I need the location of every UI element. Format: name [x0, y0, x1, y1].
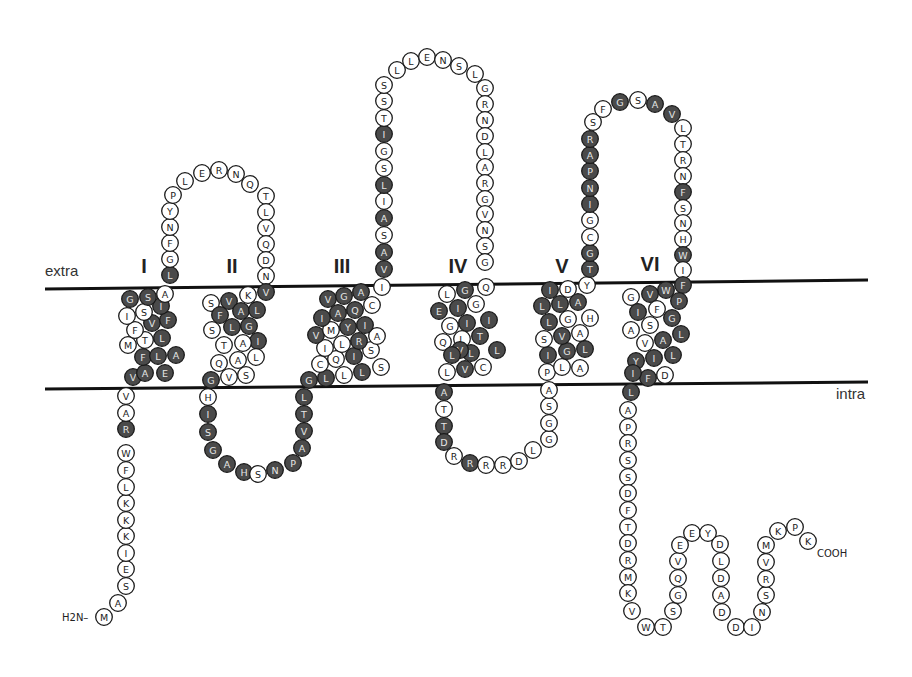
residue-3: S: [118, 578, 135, 595]
svg-text:D: D: [564, 284, 571, 295]
residue-84: L: [336, 367, 353, 384]
residue-117: S: [376, 93, 393, 110]
svg-text:G: G: [668, 313, 675, 324]
residue-200: S: [630, 92, 647, 109]
residue-248: S: [665, 603, 682, 620]
residue-202: V: [664, 106, 681, 123]
residue-204: T: [675, 136, 692, 153]
svg-text:R: R: [587, 134, 594, 145]
residue-70: I: [200, 406, 217, 423]
tm-helix-label-1: I: [141, 255, 147, 277]
svg-text:A: A: [546, 385, 553, 396]
svg-text:L: L: [444, 289, 450, 300]
svg-text:L: L: [530, 445, 536, 456]
residue-189: G: [582, 245, 599, 262]
residue-45: L: [258, 204, 275, 221]
svg-text:Q: Q: [351, 305, 358, 316]
svg-text:A: A: [441, 387, 448, 398]
svg-text:L: L: [482, 147, 488, 158]
residue-108: A: [376, 244, 393, 261]
residue-158: T: [436, 418, 453, 435]
residue-205: R: [675, 152, 692, 169]
residue-253: E: [684, 525, 701, 542]
svg-text:R: R: [625, 555, 632, 566]
svg-text:L: L: [155, 351, 161, 362]
residue-268: P: [787, 519, 804, 536]
svg-text:K: K: [123, 531, 130, 542]
residue-66: S: [238, 367, 255, 384]
svg-text:L: L: [167, 270, 173, 281]
svg-text:I: I: [383, 129, 386, 140]
residue-64: A: [230, 352, 247, 369]
residue-247: T: [655, 619, 672, 636]
residue-137: Q: [478, 279, 495, 296]
transmembrane-labels: IIIIIIIVVVI: [141, 253, 659, 277]
svg-text:T: T: [476, 331, 483, 342]
residue-229: D: [657, 367, 674, 384]
svg-text:L: L: [229, 322, 235, 333]
residue-132: G: [477, 191, 494, 208]
residue-157: T: [436, 401, 453, 418]
svg-text:G: G: [564, 314, 571, 325]
svg-text:F: F: [600, 104, 605, 115]
residue-37: Y: [162, 203, 179, 220]
residue-242: R: [620, 552, 637, 569]
residue-21: M: [120, 337, 137, 354]
residue-106: I: [374, 279, 391, 296]
residue-249: G: [670, 587, 687, 604]
svg-text:S: S: [546, 401, 552, 412]
svg-text:N: N: [232, 169, 239, 180]
residue-143: G: [442, 318, 459, 335]
svg-text:F: F: [165, 315, 170, 326]
residue-217: P: [671, 293, 688, 310]
residue-31: S: [140, 289, 157, 306]
svg-text:A: A: [115, 598, 122, 609]
residue-51: K: [240, 287, 257, 304]
residue-133: V: [477, 206, 494, 223]
residue-18: F: [135, 349, 152, 366]
residue-194: P: [582, 163, 599, 180]
svg-text:D: D: [515, 456, 522, 467]
residue-130: A: [477, 159, 494, 176]
residue-159: D: [436, 434, 453, 451]
svg-text:N: N: [481, 225, 488, 236]
residue-218: F: [649, 301, 666, 318]
svg-text:R: R: [625, 438, 632, 449]
residue-154: C: [475, 359, 492, 376]
svg-text:M: M: [762, 540, 770, 551]
residue-182: L: [534, 298, 551, 315]
residue-20: A: [168, 347, 185, 364]
residue-215: V: [642, 286, 659, 303]
svg-text:R: R: [123, 424, 130, 435]
residue-240: T: [620, 519, 637, 536]
residue-11: W: [118, 445, 135, 462]
svg-text:P: P: [587, 166, 593, 177]
svg-text:F: F: [167, 238, 172, 249]
residue-262: N: [754, 604, 771, 621]
svg-text:S: S: [541, 334, 547, 345]
svg-text:V: V: [642, 338, 649, 349]
residue-33: L: [162, 267, 179, 284]
residue-221: S: [642, 317, 659, 334]
svg-text:L: L: [546, 317, 552, 328]
residue-199: G: [612, 94, 629, 111]
svg-text:A: A: [652, 99, 659, 110]
residue-134: N: [477, 222, 494, 239]
residue-186: D: [560, 281, 577, 298]
svg-text:I: I: [637, 307, 640, 318]
svg-text:F: F: [123, 465, 128, 476]
tm-helix-label-3: III: [334, 255, 351, 277]
residue-206: N: [675, 168, 692, 185]
svg-text:S: S: [625, 455, 631, 466]
svg-text:C: C: [369, 300, 376, 311]
svg-text:V: V: [149, 318, 156, 329]
svg-text:T: T: [586, 264, 593, 275]
svg-text:I: I: [324, 343, 327, 354]
residue-103: V: [320, 291, 337, 308]
svg-text:I: I: [632, 368, 635, 379]
residue-193: N: [582, 180, 599, 197]
svg-text:A: A: [162, 289, 169, 300]
residue-220: G: [664, 310, 681, 327]
svg-text:N: N: [679, 218, 686, 229]
svg-text:I: I: [353, 351, 356, 362]
